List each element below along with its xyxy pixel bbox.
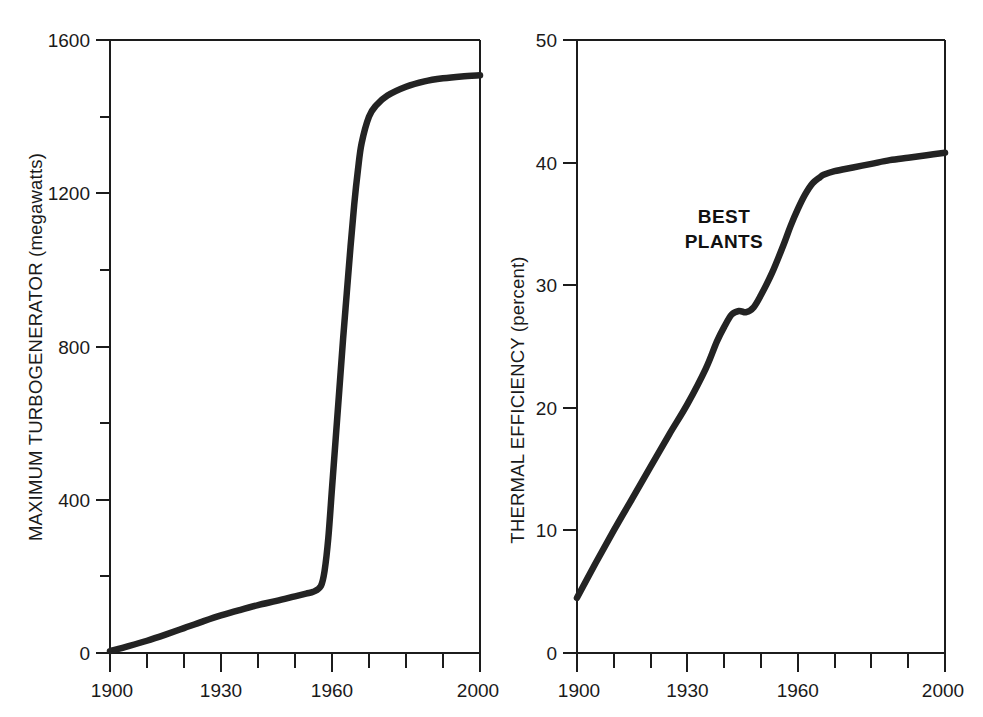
left-chart-svg: 0 400 800 1200 1600	[0, 0, 500, 717]
y-tick-label: 40	[536, 153, 557, 174]
x-tick-label: 1930	[666, 680, 708, 701]
left-data-curve	[110, 75, 480, 651]
x-tick-label: 1900	[558, 680, 600, 701]
figure-container: 0 400 800 1200 1600	[0, 0, 983, 717]
right-chart-svg: 0 10 20 30 40 50	[500, 0, 983, 717]
x-tick-label: 1930	[200, 680, 242, 701]
left-y-major-ticks	[96, 40, 110, 653]
best-plants-annotation: BEST PLANTS	[685, 206, 763, 252]
x-tick-label: 2000	[457, 680, 499, 701]
annotation-line-2: PLANTS	[685, 231, 763, 252]
right-x-tick-labels: 1900 1930 1960 2000	[558, 680, 964, 701]
y-tick-label: 800	[58, 337, 90, 358]
annotation-line-1: BEST	[698, 206, 750, 227]
chart-panel-maximum-turbogenerator: 0 400 800 1200 1600	[0, 0, 500, 717]
right-y-tick-labels: 0 10 20 30 40 50	[536, 30, 557, 664]
right-x-minor-ticks	[614, 653, 908, 668]
left-y-axis-title: MAXIMUM TURBOGENERATOR (megawatts)	[25, 153, 46, 541]
left-x-minor-ticks	[147, 653, 443, 668]
y-tick-label: 1600	[48, 30, 90, 51]
right-y-major-ticks	[563, 40, 577, 653]
left-y-tick-labels: 0 400 800 1200 1600	[48, 30, 90, 664]
x-tick-label: 2000	[922, 680, 964, 701]
y-tick-label: 10	[536, 520, 557, 541]
right-y-axis-title: THERMAL EFFICIENCY (percent)	[507, 256, 528, 543]
right-plot-frame	[577, 40, 945, 653]
x-tick-label: 1960	[777, 680, 819, 701]
x-tick-label: 1960	[311, 680, 353, 701]
y-tick-label: 0	[79, 643, 90, 664]
left-x-tick-labels: 1900 1930 1960 2000	[91, 680, 499, 701]
right-data-curve	[577, 153, 945, 598]
chart-panel-thermal-efficiency: 0 10 20 30 40 50	[500, 0, 983, 717]
y-tick-label: 400	[58, 490, 90, 511]
x-tick-label: 1900	[91, 680, 133, 701]
y-tick-label: 20	[536, 398, 557, 419]
y-tick-label: 0	[546, 643, 557, 664]
y-tick-label: 30	[536, 275, 557, 296]
left-plot-frame	[110, 40, 480, 653]
y-tick-label: 1200	[48, 183, 90, 204]
y-tick-label: 50	[536, 30, 557, 51]
